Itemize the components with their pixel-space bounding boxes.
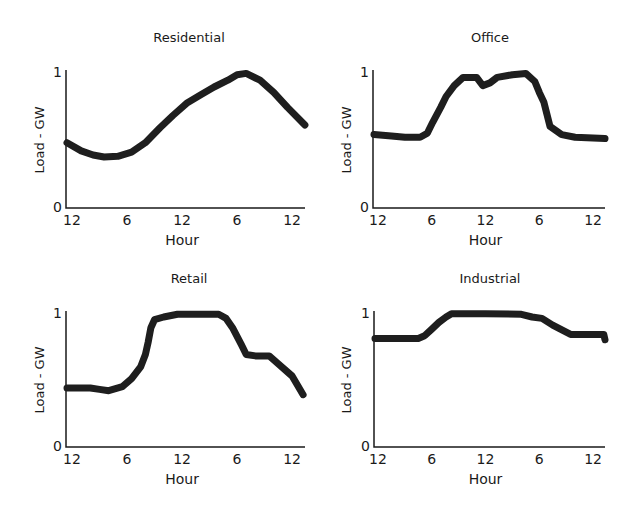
xtick-label: 6 <box>123 451 132 467</box>
ytick-label: 0 <box>360 199 369 215</box>
x-axis-label: Hour <box>165 232 199 248</box>
xtick-label: 6 <box>427 212 436 228</box>
ytick-label: 1 <box>53 305 62 321</box>
panel-title: Industrial <box>460 271 521 286</box>
load-curve <box>375 314 605 340</box>
ytick-label: 1 <box>361 305 370 321</box>
panel-industrial: Industrial1012612612HourLoad - GW <box>339 271 605 487</box>
figure: Residential1012612612HourLoad - GWOffice… <box>0 0 635 516</box>
panel-residential: Residential1012612612HourLoad - GW <box>32 30 305 248</box>
xtick-label: 12 <box>283 212 301 228</box>
xtick-label: 6 <box>123 212 132 228</box>
xtick-label: 12 <box>477 451 495 467</box>
xtick-label: 6 <box>233 212 242 228</box>
xtick-label: 12 <box>173 212 191 228</box>
xtick-label: 12 <box>173 451 191 467</box>
ytick-label: 0 <box>53 438 62 454</box>
ytick-label: 0 <box>53 199 62 215</box>
xtick-label: 12 <box>369 212 387 228</box>
panel-retail: Retail1012612612HourLoad - GW <box>32 271 305 487</box>
xtick-label: 6 <box>535 212 544 228</box>
xtick-label: 12 <box>63 451 81 467</box>
y-axis-label: Load - GW <box>339 106 354 173</box>
panel-title: Residential <box>153 30 225 45</box>
y-axis-label: Load - GW <box>32 106 47 173</box>
panel-office: Office1012612612HourLoad - GW <box>339 30 605 248</box>
panel-title: Office <box>471 30 509 45</box>
load-curve <box>374 73 605 138</box>
x-axis-label: Hour <box>469 471 503 487</box>
ytick-label: 1 <box>360 64 369 80</box>
xtick-label: 12 <box>283 451 301 467</box>
xtick-label: 12 <box>63 212 81 228</box>
load-curve <box>67 314 303 394</box>
y-axis-label: Load - GW <box>339 346 354 413</box>
xtick-label: 6 <box>233 451 242 467</box>
xtick-label: 12 <box>584 212 602 228</box>
panel-title: Retail <box>171 271 208 286</box>
ytick-label: 1 <box>53 64 62 80</box>
xtick-label: 6 <box>535 451 544 467</box>
x-axis-label: Hour <box>165 471 199 487</box>
xtick-label: 12 <box>477 212 495 228</box>
xtick-label: 12 <box>584 451 602 467</box>
axes <box>66 311 305 447</box>
xtick-label: 12 <box>369 451 387 467</box>
x-axis-label: Hour <box>469 232 503 248</box>
load-curve <box>67 73 305 157</box>
xtick-label: 6 <box>427 451 436 467</box>
y-axis-label: Load - GW <box>32 346 47 413</box>
